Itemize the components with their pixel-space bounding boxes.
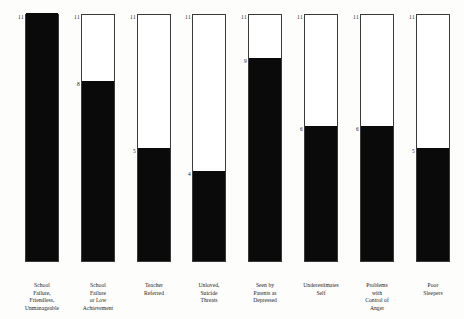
bar-group: 118SchoolFailureor LowAchievement (81, 14, 115, 262)
bar-outline: 11 (25, 14, 59, 262)
bar-max-label: 11 (69, 14, 80, 21)
bar-max-label: 11 (180, 14, 191, 21)
bar-outline: 116 (304, 14, 338, 262)
bar-value-label: 9 (236, 58, 247, 65)
bar-max-label: 11 (348, 14, 359, 21)
bar-max-label: 11 (125, 14, 136, 21)
bar-outline: 115 (137, 14, 171, 262)
bar-chart: 11SchoolFailure,Friendless,Unmanageable1… (0, 0, 464, 319)
bar-value-label: 6 (292, 126, 303, 133)
category-label: PoorSleepers (400, 282, 464, 297)
plot-area: 11SchoolFailure,Friendless,Unmanageable1… (0, 0, 464, 319)
bar-value-label: 5 (125, 148, 136, 155)
category-label-line: Depressed (232, 297, 298, 305)
category-label-line: Achievement (65, 305, 131, 313)
bar-outline: 114 (192, 14, 226, 262)
bar-max-label: 11 (404, 14, 415, 21)
bar-fill (193, 171, 225, 261)
bar-group: 119Seen byParents asDepressed (248, 14, 282, 262)
bar-fill (305, 126, 337, 261)
bar-fill (249, 58, 281, 261)
bar-outline: 118 (81, 14, 115, 262)
bar-value-label: 8 (69, 81, 80, 88)
bar-value-label: 5 (404, 148, 415, 155)
bar-fill (82, 81, 114, 261)
bar-fill (417, 148, 449, 261)
bar-group: 116UnderestimatesSelf (304, 14, 338, 262)
bar-group: 115PoorSleepers (416, 14, 450, 262)
bar-max-label: 11 (236, 14, 247, 21)
bar-value-label: 6 (348, 126, 359, 133)
bar-outline: 116 (360, 14, 394, 262)
bar-value-label: 4 (180, 171, 191, 178)
bar-fill (26, 13, 58, 261)
bar-group: 11SchoolFailure,Friendless,Unmanageable (25, 14, 59, 262)
bar-fill (361, 126, 393, 261)
bar-outline: 119 (248, 14, 282, 262)
category-label-line: Control of (344, 297, 410, 305)
bar-fill (138, 148, 170, 261)
bar-max-label: 11 (13, 14, 24, 21)
category-label-line: Poor (400, 282, 464, 290)
bar-outline: 115 (416, 14, 450, 262)
bar-group: 116ProblemswithControl ofAnger (360, 14, 394, 262)
bar-group: 114Unloved,SuicideThreats (192, 14, 226, 262)
category-label-line: or Low (65, 297, 131, 305)
bar-group: 115TeacherReferred (137, 14, 171, 262)
bar-max-label: 11 (292, 14, 303, 21)
category-label-line: Sleepers (400, 290, 464, 298)
category-label-line: Anger (344, 305, 410, 313)
